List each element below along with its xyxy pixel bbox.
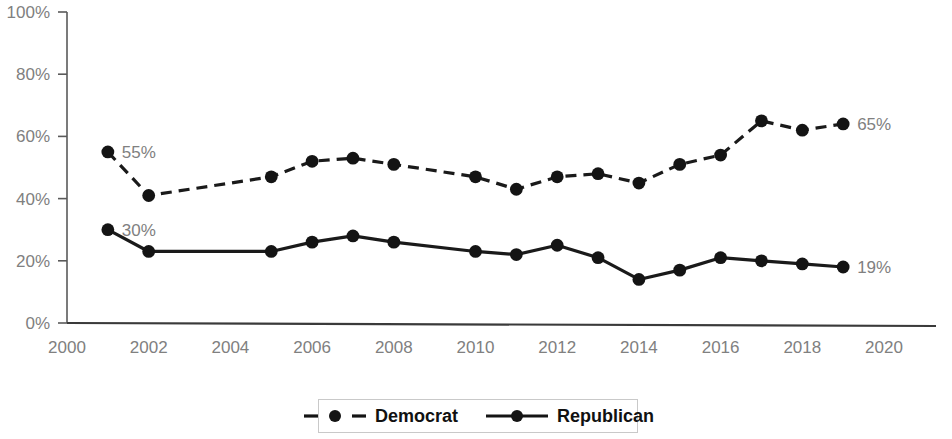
x-axis-line [67, 323, 936, 326]
y-tick-label: 100% [7, 3, 50, 22]
x-tick-label: 2020 [865, 338, 903, 357]
data-point-marker [306, 236, 319, 249]
data-point-marker [551, 239, 564, 252]
data-point-marker [714, 149, 727, 162]
y-axis-ticks [58, 12, 67, 323]
data-point-marker [592, 251, 605, 264]
data-point-marker [387, 236, 400, 249]
x-tick-label: 2010 [457, 338, 495, 357]
x-tick-label: 2008 [375, 338, 413, 357]
data-point-marker [755, 254, 768, 267]
chart-legend: Democrat Republican [318, 399, 638, 433]
data-point-marker [633, 177, 646, 190]
x-axis-tick-labels: 2000200220042006200820102012201420162018… [48, 338, 903, 357]
data-point-marker [837, 261, 850, 274]
x-tick-label: 2006 [293, 338, 331, 357]
republican-markers [101, 223, 849, 286]
legend-item-republican: Republican [484, 406, 654, 427]
data-point-marker [673, 264, 686, 277]
democrat-line [108, 121, 843, 196]
data-point-marker [142, 189, 155, 202]
data-point-marker [469, 170, 482, 183]
x-tick-label: 2014 [620, 338, 658, 357]
data-point-marker [796, 258, 809, 271]
republican-legend-swatch-icon [484, 408, 550, 424]
data-point-marker [510, 183, 523, 196]
endpoint-value-label: 19% [857, 258, 891, 277]
chart-container: 0%20%40%60%80%100% 200020022004200620082… [0, 0, 952, 439]
data-point-marker [510, 248, 523, 261]
legend-label-republican: Republican [557, 406, 654, 427]
y-tick-label: 20% [16, 252, 50, 271]
y-axis-tick-labels: 0%20%40%60%80%100% [7, 3, 50, 333]
endpoint-value-label: 30% [122, 221, 156, 240]
line-chart: 0%20%40%60%80%100% 200020022004200620082… [0, 0, 952, 439]
x-tick-label: 2000 [48, 338, 86, 357]
x-tick-label: 2016 [702, 338, 740, 357]
endpoint-value-label: 55% [122, 143, 156, 162]
legend-item-democrat: Democrat [302, 406, 458, 427]
x-axis: 2000200220042006200820102012201420162018… [48, 323, 936, 357]
y-tick-label: 60% [16, 127, 50, 146]
y-tick-label: 0% [25, 314, 50, 333]
data-point-marker [633, 273, 646, 286]
data-point-marker [101, 223, 114, 236]
data-point-marker [551, 170, 564, 183]
y-tick-label: 40% [16, 190, 50, 209]
x-tick-label: 2004 [211, 338, 249, 357]
data-point-marker [714, 251, 727, 264]
y-axis: 0%20%40%60%80%100% [7, 3, 67, 333]
data-point-marker [837, 118, 850, 131]
data-point-marker [387, 158, 400, 171]
data-point-marker [142, 245, 155, 258]
x-tick-label: 2012 [538, 338, 576, 357]
data-point-marker [755, 114, 768, 127]
data-point-marker [347, 152, 360, 165]
x-tick-label: 2018 [783, 338, 821, 357]
y-tick-label: 80% [16, 65, 50, 84]
legend-label-democrat: Democrat [375, 406, 458, 427]
data-point-marker [592, 167, 605, 180]
data-point-marker [469, 245, 482, 258]
data-point-marker [306, 155, 319, 168]
democrat-legend-swatch-icon [302, 408, 368, 424]
data-point-marker [673, 158, 686, 171]
data-point-marker [796, 124, 809, 137]
data-point-marker [265, 245, 278, 258]
democrat-markers [101, 114, 849, 201]
data-point-marker [265, 170, 278, 183]
x-tick-label: 2002 [130, 338, 168, 357]
data-point-marker [101, 146, 114, 159]
data-point-marker [347, 230, 360, 243]
endpoint-value-label: 65% [857, 115, 891, 134]
